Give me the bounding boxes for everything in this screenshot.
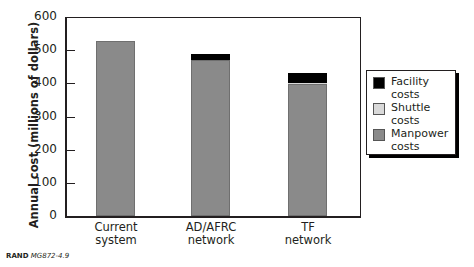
legend-swatch bbox=[373, 129, 385, 141]
legend-item: Facilitycosts bbox=[373, 75, 455, 101]
x-tick-label: AD/AFRCnetwork bbox=[171, 221, 251, 247]
y-tick-label: 0 bbox=[17, 208, 57, 222]
legend-item: Shuttlecosts bbox=[373, 101, 455, 127]
shuttle-segment bbox=[288, 83, 327, 85]
credit-id: MG872-4.9 bbox=[31, 252, 69, 260]
legend-label: Facilitycosts bbox=[391, 75, 429, 101]
legend-label: Manpowercosts bbox=[391, 127, 448, 153]
y-tick bbox=[66, 117, 75, 118]
y-tick bbox=[66, 183, 75, 184]
manpower-segment bbox=[288, 84, 327, 216]
y-tick-label: 200 bbox=[17, 142, 57, 156]
legend-item: Manpowercosts bbox=[373, 127, 455, 153]
manpower-segment bbox=[191, 60, 230, 216]
figure-credit: RAND MG872-4.9 bbox=[6, 252, 69, 260]
legend-label: Shuttlecosts bbox=[391, 101, 430, 127]
y-tick-label: 600 bbox=[17, 9, 57, 23]
y-tick bbox=[66, 150, 75, 151]
x-tick-label: Currentsystem bbox=[76, 221, 156, 247]
y-tick-label: 300 bbox=[17, 109, 57, 123]
plot-area bbox=[65, 17, 361, 218]
x-tick-label: TFnetwork bbox=[268, 221, 348, 247]
facility-segment bbox=[191, 54, 230, 61]
legend: FacilitycostsShuttlecostsManpowercosts bbox=[366, 70, 456, 155]
y-tick-label: 100 bbox=[17, 175, 57, 189]
y-tick bbox=[66, 50, 75, 51]
y-tick bbox=[66, 83, 75, 84]
y-tick-label: 500 bbox=[17, 42, 57, 56]
manpower-segment bbox=[96, 41, 135, 216]
legend-swatch bbox=[373, 103, 385, 115]
facility-segment bbox=[288, 73, 327, 82]
credit-org: RAND bbox=[6, 252, 28, 260]
y-tick-label: 400 bbox=[17, 75, 57, 89]
legend-swatch bbox=[373, 77, 385, 89]
